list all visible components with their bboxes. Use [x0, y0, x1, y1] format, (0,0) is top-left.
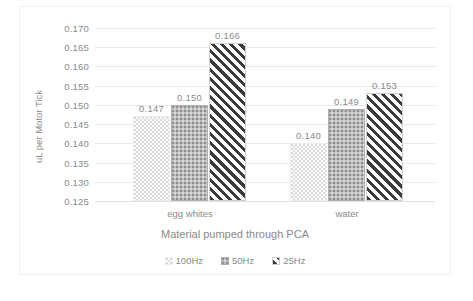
y-axis-tick-label: 0.155	[64, 81, 89, 92]
legend-swatch-icon	[165, 257, 173, 265]
y-axis-title-label: uL per Motor Tick	[34, 89, 45, 162]
x-axis-tick-label: water	[335, 208, 358, 219]
y-axis-tick-label: 0.160	[64, 61, 89, 72]
chart-container: uL per Motor Tick 0.1700.1650.1600.1550.…	[19, 6, 451, 275]
y-axis-tick-label: 0.140	[64, 138, 89, 149]
bar-value-label: 0.140	[296, 130, 321, 141]
y-axis-title: uL per Motor Tick	[32, 51, 46, 201]
bar-value-label: 0.147	[139, 103, 164, 114]
y-axis-tick-label: 0.170	[64, 23, 89, 34]
gridline	[95, 201, 435, 202]
y-axis-tick-label: 0.125	[64, 196, 89, 207]
y-axis-tick-label: 0.165	[64, 42, 89, 53]
gridline	[95, 66, 435, 67]
bar-water-100Hz: 0.140	[290, 143, 327, 201]
bar-water-50Hz: 0.149	[328, 109, 365, 201]
legend-item-50Hz[interactable]: 50Hz	[221, 255, 254, 266]
plot-area: 0.1700.1650.1600.1550.1500.1450.1400.135…	[95, 28, 435, 201]
legend-item-25Hz[interactable]: 25Hz	[272, 255, 305, 266]
bar-value-label: 0.166	[215, 30, 240, 41]
bar-egg-whites-25Hz: 0.166	[209, 43, 246, 201]
y-axis-tick-label: 0.150	[64, 100, 89, 111]
legend-item-100Hz[interactable]: 100Hz	[165, 255, 203, 266]
bar-egg-whites-100Hz: 0.147	[133, 116, 170, 201]
bar-value-label: 0.150	[177, 92, 202, 103]
x-axis-title: Material pumped through PCA	[20, 228, 450, 240]
y-axis-tick-label: 0.145	[64, 119, 89, 130]
chart-legend: 100Hz50Hz25Hz	[20, 255, 450, 266]
bar-value-label: 0.153	[372, 80, 397, 91]
legend-swatch-icon	[221, 257, 229, 265]
legend-swatch-icon	[272, 257, 280, 265]
legend-label: 100Hz	[176, 255, 203, 266]
gridline	[95, 28, 435, 29]
bar-value-label: 0.149	[334, 96, 359, 107]
legend-label: 50Hz	[232, 255, 254, 266]
legend-label: 25Hz	[283, 255, 305, 266]
bar-water-25Hz: 0.153	[366, 93, 403, 201]
y-axis-tick-label: 0.130	[64, 177, 89, 188]
y-axis-tick-label: 0.135	[64, 158, 89, 169]
gridline	[95, 47, 435, 48]
bar-egg-whites-50Hz: 0.150	[171, 105, 208, 201]
x-axis-tick-label: egg whites	[167, 208, 212, 219]
